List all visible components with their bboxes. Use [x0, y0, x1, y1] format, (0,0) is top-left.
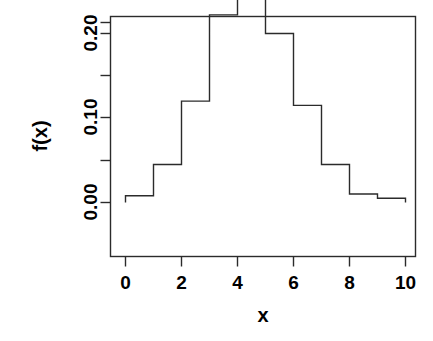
histogram-plot: 0.00 0.10 0.20 0 2 4 6 8 10 x f(x): [0, 0, 433, 341]
x-tick-label-10: 10: [395, 272, 416, 293]
histogram-figure: 0.00 0.10 0.20 0 2 4 6 8 10 x f(x): [0, 0, 433, 341]
x-tick-label-2: 2: [176, 272, 187, 293]
histogram-step-outline: [126, 0, 406, 203]
y-tick-label-0.10: 0.10: [80, 99, 101, 136]
y-tick-label-0.20: 0.20: [80, 15, 101, 52]
y-axis-title: f(x): [29, 120, 51, 151]
y-axis-ticks: [101, 23, 111, 203]
x-tick-label-0: 0: [120, 272, 131, 293]
x-tick-label-6: 6: [288, 272, 299, 293]
y-tick-label-0.00: 0.00: [80, 184, 101, 221]
x-axis-title: x: [257, 304, 268, 326]
x-tick-label-4: 4: [232, 272, 243, 293]
plot-frame: [111, 17, 416, 257]
y-tick-labels: 0.00 0.10 0.20: [80, 15, 101, 221]
x-tick-label-8: 8: [344, 272, 355, 293]
plot-box: [111, 17, 416, 257]
x-axis-ticks: [126, 257, 406, 267]
x-tick-labels: 0 2 4 6 8 10: [120, 272, 416, 293]
